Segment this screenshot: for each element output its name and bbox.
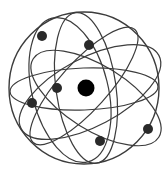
electron-5 <box>95 136 105 146</box>
atom-icon <box>0 0 168 176</box>
electron-2 <box>84 40 94 50</box>
electron-4 <box>27 98 37 108</box>
atom-diagram: Atom model <box>0 0 168 176</box>
electron-6 <box>143 124 153 134</box>
electron-1 <box>37 31 47 41</box>
nucleus <box>78 80 95 97</box>
electron-3 <box>52 83 62 93</box>
